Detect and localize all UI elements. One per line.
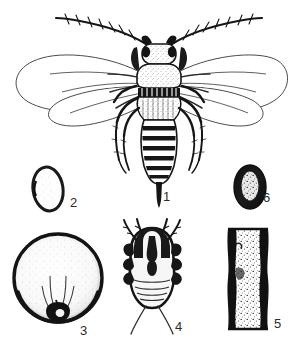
- pronotum: [137, 64, 181, 88]
- figure-label-3: 3: [80, 324, 87, 337]
- left-midleg-tarsus: [119, 160, 126, 173]
- figure-label-2: 2: [70, 196, 77, 209]
- figure-2-egg-outline: [30, 165, 66, 213]
- illustration-plate: 1 2 3 4 5 6: [0, 0, 297, 345]
- mesonotum-band: [138, 88, 180, 97]
- metanotum: [137, 97, 181, 120]
- figure-6-dark-egg: [234, 165, 266, 209]
- nymph-caudal-filaments: [131, 306, 173, 334]
- right-forefemur: [179, 47, 187, 70]
- figure-4-nymph: [123, 219, 182, 334]
- figure-label-4: 4: [175, 320, 182, 333]
- figure-3-gall: [14, 230, 108, 322]
- twig-right-margin: [259, 228, 268, 330]
- left-forefemur: [131, 47, 139, 70]
- figure-label-1: 1: [163, 190, 170, 203]
- dark-egg-interior: [242, 172, 259, 201]
- figure-label-6: 6: [263, 191, 270, 204]
- ovipositor: [156, 182, 162, 208]
- plate-artwork: [0, 0, 297, 345]
- gall-aperture-opening: [56, 309, 65, 317]
- antennae: [56, 14, 262, 44]
- abdomen: [141, 120, 177, 208]
- thorax: [137, 64, 181, 120]
- figure-5-twig: [227, 228, 268, 330]
- right-eye: [168, 47, 176, 58]
- figure-label-5: 5: [274, 317, 281, 330]
- nymph-median-spot: [147, 260, 157, 276]
- right-antenna: [172, 18, 262, 44]
- left-antenna: [56, 18, 146, 44]
- left-eye: [142, 47, 150, 58]
- antennal-segments: [65, 14, 253, 40]
- twig-left-margin: [227, 228, 236, 330]
- right-midleg-tarsus: [192, 160, 199, 173]
